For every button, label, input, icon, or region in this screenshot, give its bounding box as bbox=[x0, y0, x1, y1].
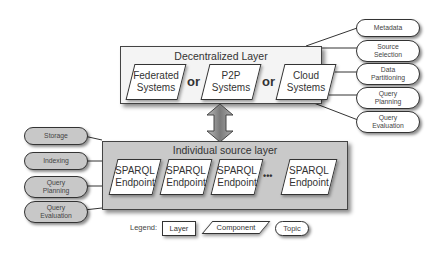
component-label: Federated bbox=[133, 70, 179, 82]
individual-layer-title: Individual source layer bbox=[103, 144, 347, 156]
or-separator: or bbox=[262, 74, 275, 89]
legend-layer: Layer bbox=[162, 221, 196, 236]
topic-source-selection: SourceSelection bbox=[356, 40, 420, 62]
topic-query-evaluation: QueryEvaluation bbox=[356, 111, 420, 133]
component-sparql-endpoint: SPARQLEndpoint bbox=[113, 159, 157, 195]
topic-metadata: Metadata bbox=[356, 19, 420, 37]
double-arrow-icon bbox=[205, 103, 235, 143]
component-label: Systems bbox=[212, 82, 250, 94]
topic-indexing: Indexing bbox=[24, 152, 88, 170]
component-label: P2P bbox=[222, 70, 241, 82]
legend-topic: Topic bbox=[275, 221, 309, 236]
component-label: Systems bbox=[287, 82, 325, 94]
topic-query-planning: QueryPlanning bbox=[356, 87, 420, 109]
legend-label: Legend: bbox=[130, 223, 157, 232]
topic-query-planning: QueryPlanning bbox=[24, 176, 88, 198]
component-label: Cloud bbox=[293, 70, 319, 82]
component-federated-systems: FederatedSystems bbox=[130, 64, 182, 100]
component-label: Systems bbox=[137, 82, 175, 94]
topic-storage: Storage bbox=[24, 127, 88, 145]
component-sparql-endpoint: SPARQLEndpoint bbox=[164, 159, 208, 195]
component-cloud-systems: CloudSystems bbox=[280, 64, 332, 100]
component-sparql-endpoint: SPARQLEndpoint bbox=[215, 159, 259, 195]
topic-data-partitioning: DataPartitioning bbox=[356, 63, 420, 85]
legend-component: Component bbox=[207, 221, 265, 234]
decentralized-layer-title: Decentralized Layer bbox=[121, 50, 321, 62]
or-separator: or bbox=[187, 74, 200, 89]
component-p2p-systems: P2PSystems bbox=[205, 64, 257, 100]
topic-query-evaluation: QueryEvaluation bbox=[24, 201, 88, 223]
decentralized-layer: Decentralized Layer FederatedSystems or … bbox=[120, 46, 322, 104]
individual-source-layer: Individual source layer SPARQLEndpoint S… bbox=[102, 141, 348, 210]
ellipsis: ••• bbox=[263, 171, 272, 181]
component-sparql-endpoint: SPARQLEndpoint bbox=[285, 159, 333, 195]
